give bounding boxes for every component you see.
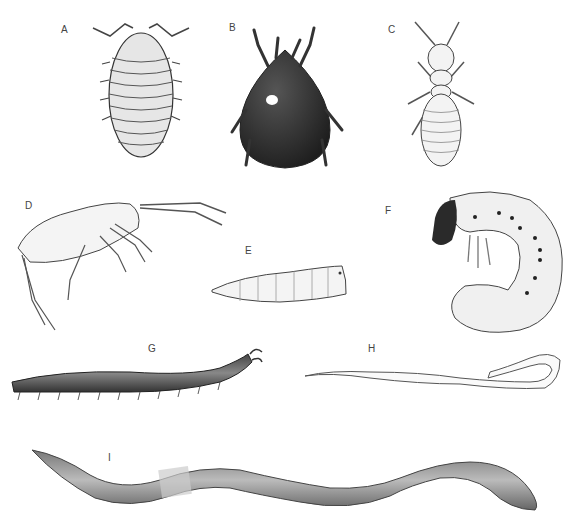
panel-label-b: B [229,22,236,33]
pale-worm-illustration [305,354,560,388]
panel-label-i: I [108,452,111,463]
beetle-grub-illustration [432,192,562,332]
mite-illustration [232,28,342,168]
fly-larva-illustration [212,266,346,302]
illustrations [0,0,577,527]
soil-fauna-figure: A B C D E F G H I [0,0,577,527]
springtail-illustration [18,203,226,330]
woodlouse-illustration [93,24,189,157]
panel-label-a: A [61,24,68,35]
panel-label-h: H [368,343,375,354]
termite-illustration [408,22,474,166]
panel-label-c: C [388,24,395,35]
panel-label-f: F [385,205,391,216]
panel-label-e: E [245,245,252,256]
panel-label-d: D [25,200,32,211]
panel-label-g: G [148,343,156,354]
millipede-illustration [12,349,262,400]
